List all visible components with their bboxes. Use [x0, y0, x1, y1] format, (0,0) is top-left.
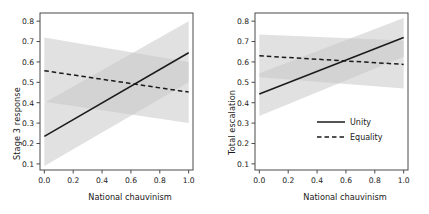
x-tick-label: 0.0 [253, 176, 265, 185]
confidence-bands [259, 18, 403, 116]
x-tick-label: 0.4 [96, 176, 108, 185]
x-tick-label: 0.2 [282, 176, 294, 185]
plot-area-right: 0.10.20.30.40.50.60.70.80.00.20.40.60.81… [215, 0, 429, 214]
x-tick-label: 0.8 [369, 176, 381, 185]
y-tick-label: 0.2 [237, 139, 249, 148]
legend: UnityEquality [317, 118, 383, 142]
x-tick-label: 0.4 [311, 176, 323, 185]
x-tick-label: 0.0 [38, 176, 50, 185]
x-tick-label: 1.0 [398, 176, 410, 185]
x-tick-label: 0.2 [67, 176, 79, 185]
y-tick-label: 0.4 [22, 99, 34, 108]
y-tick-label: 0.8 [237, 17, 249, 26]
y-tick-label: 0.1 [237, 160, 249, 169]
plot-area-left: 0.10.20.30.40.50.60.70.80.00.20.40.60.81… [0, 0, 214, 214]
y-tick-label: 0.5 [22, 78, 34, 87]
y-tick-label: 0.6 [22, 58, 34, 67]
y-tick-label: 0.4 [237, 99, 249, 108]
y-tick-label: 0.3 [237, 119, 249, 128]
x-tick-label: 0.6 [125, 176, 137, 185]
chart-panel-left: Stage 3 response National chauvinism 0.1… [0, 0, 214, 214]
x-tick-label: 0.8 [154, 176, 166, 185]
legend-label-equality: Equality [350, 133, 383, 142]
x-tick-label: 0.6 [340, 176, 352, 185]
chart-panel-right: Total escalation National chauvinism 0.1… [215, 0, 429, 214]
y-tick-label: 0.5 [237, 78, 249, 87]
y-tick-label: 0.7 [22, 37, 34, 46]
y-tick-label: 0.7 [237, 37, 249, 46]
x-tick-label: 1.0 [183, 176, 195, 185]
y-tick-label: 0.6 [237, 58, 249, 67]
figure-panel-pair: Stage 3 response National chauvinism 0.1… [0, 0, 429, 214]
confidence-bands [44, 21, 188, 166]
y-tick-label: 0.2 [22, 139, 34, 148]
legend-label-unity: Unity [350, 118, 371, 127]
y-tick-label: 0.1 [22, 160, 34, 169]
y-tick-label: 0.8 [22, 17, 34, 26]
y-tick-label: 0.3 [22, 119, 34, 128]
